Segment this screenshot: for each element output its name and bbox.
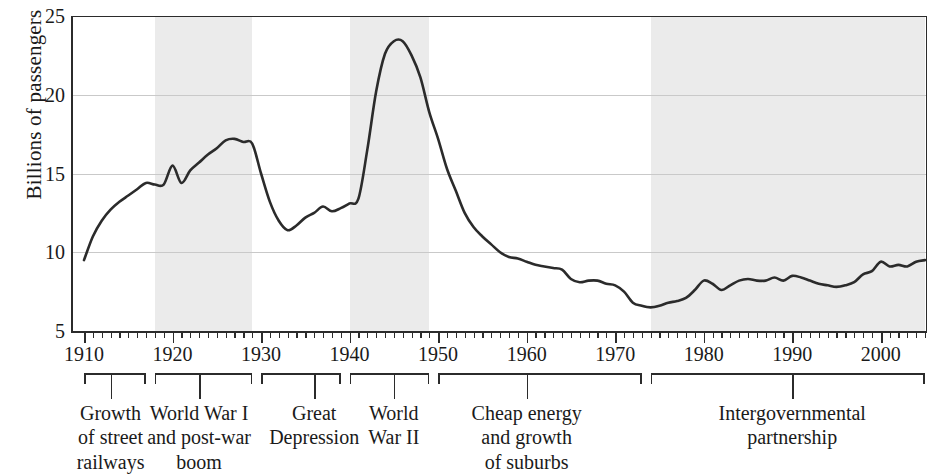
bracket-stem: [527, 373, 529, 399]
period-label: Intergovernmentalpartnership: [677, 401, 907, 450]
bracket-bar: [155, 373, 252, 375]
x-tick-label: 1980: [669, 344, 739, 364]
bracket-left-cap: [155, 373, 157, 384]
x-tick-label: 1910: [49, 344, 119, 364]
bracket-right-cap: [251, 373, 253, 384]
x-tick-label: 1940: [315, 344, 385, 364]
period-label-line: partnership: [677, 425, 907, 449]
bracket-stem: [792, 373, 794, 399]
bracket-bar: [350, 373, 430, 375]
period-label-line: of suburbs: [412, 450, 642, 474]
bracket-left-cap: [350, 373, 352, 384]
x-tick-label: 1930: [226, 344, 296, 364]
bracket-left-cap: [438, 373, 440, 384]
bracket-bar: [261, 373, 341, 375]
bracket-right-cap: [640, 373, 642, 384]
bracket-stem: [314, 373, 316, 399]
bracket-stem: [199, 373, 201, 399]
period-label-line: Intergovernmental: [677, 401, 907, 425]
bracket-right-cap: [144, 373, 146, 384]
bracket-left-cap: [84, 373, 86, 384]
series-line: [84, 40, 925, 308]
x-tick-label: 1960: [492, 344, 562, 364]
x-tick-label: 1990: [757, 344, 827, 364]
bracket-right-cap: [428, 373, 430, 384]
period-label-line: Cheap energy: [412, 401, 642, 425]
bracket-stem: [394, 373, 396, 399]
x-tick-label: 1970: [580, 344, 650, 364]
bracket-left-cap: [651, 373, 653, 384]
period-label-line: boom: [84, 450, 314, 474]
bracket-bar: [651, 373, 925, 375]
bracket-stem: [111, 373, 113, 399]
bracket-right-cap: [339, 373, 341, 384]
period-label-line: and growth: [412, 425, 642, 449]
x-tick-label: 2000: [846, 344, 916, 364]
x-tick-label: 1920: [138, 344, 208, 364]
bracket-left-cap: [261, 373, 263, 384]
bracket-right-cap: [923, 373, 925, 384]
bracket-bar: [438, 373, 642, 375]
x-tick-label: 1950: [403, 344, 473, 364]
period-label: Cheap energyand growthof suburbs: [412, 401, 642, 474]
bracket-bar: [84, 373, 146, 375]
